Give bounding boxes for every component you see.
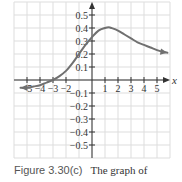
x-tick-label: −3 [48,83,59,94]
x-tick-label: 2 [116,83,121,94]
x-tick-label: 5 [155,83,160,94]
function-graph: −5−4−3−2123450.50.40.30.20.1−0.1−0.2−0.3… [0,0,182,162]
x-tick-label: 1 [103,83,108,94]
function-curve [21,27,168,88]
y-axis-arrow-icon [89,2,95,9]
y-tick-label: −0.5 [70,140,88,151]
y-tick-label: −0.2 [70,101,88,112]
x-axis-label: x [171,74,177,86]
y-tick-label: −0.3 [70,114,88,125]
y-tick-label: −0.1 [70,88,88,99]
x-tick-label: 3 [129,83,134,94]
figure-label: Figure 3.30(c) [14,164,82,176]
axes [14,2,170,158]
x-axis-arrow-icon [163,77,170,83]
y-tick-label: 0.4 [76,23,89,34]
figure-caption: Figure 3.30(c)The graph of [14,164,147,176]
y-tick-label: 0.5 [76,10,89,21]
x-tick-label: 4 [142,83,147,94]
caption-text: The graph of [90,164,147,176]
y-tick-label: −0.4 [70,127,88,138]
y-tick-label: 0.1 [76,62,89,73]
